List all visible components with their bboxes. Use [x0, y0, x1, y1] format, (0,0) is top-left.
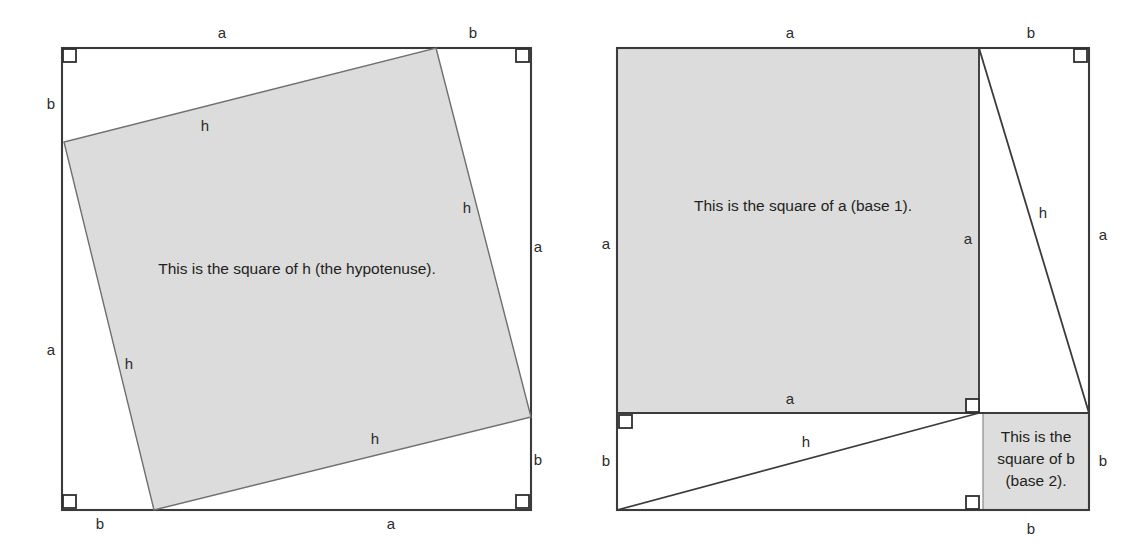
left-label-left-a: a — [47, 341, 56, 358]
right-label-left-b: b — [602, 452, 610, 469]
right-label-bottom-b: b — [1027, 520, 1035, 537]
left-label-bottom-a: a — [387, 515, 396, 532]
left-panel-caption: This is the square of h (the hypotenuse)… — [158, 260, 435, 277]
left-label-top-a: a — [218, 24, 227, 41]
left-panel-group: a b a b b a b a h h h h This is the squa… — [47, 24, 543, 532]
right-panel-caption-a: This is the square of a (base 1). — [694, 197, 912, 214]
left-label-bottom-b: b — [96, 515, 104, 532]
right-angle-marker-icon — [516, 49, 529, 62]
left-label-h-left: h — [125, 355, 133, 372]
left-tilted-hypotenuse-square — [64, 48, 531, 510]
right-angle-marker-icon — [516, 495, 529, 508]
right-angle-marker-icon — [63, 495, 76, 508]
right-angle-marker-icon — [63, 49, 76, 62]
right-label-top-b: b — [1027, 24, 1035, 41]
right-label-inner-horizontal-a: a — [786, 390, 795, 407]
right-label-right-a: a — [1099, 226, 1108, 243]
right-label-h-lower: h — [802, 433, 810, 450]
right-label-inner-vertical-a: a — [964, 230, 973, 247]
right-angle-marker-icon — [619, 415, 632, 428]
pythagorean-figure: a b a b b a b a h h h h This is the squa… — [0, 0, 1146, 556]
right-angle-marker-icon — [966, 399, 979, 412]
right-label-top-a: a — [786, 24, 795, 41]
left-label-top-b: b — [469, 24, 477, 41]
right-lower-hypotenuse-line — [617, 413, 979, 510]
left-label-left-b: b — [47, 95, 55, 112]
right-upper-hypotenuse-line — [979, 48, 1089, 413]
right-angle-marker-icon — [966, 496, 979, 509]
left-label-right-a: a — [534, 238, 543, 255]
right-label-h-upper: h — [1039, 204, 1047, 221]
right-label-left-a: a — [602, 235, 611, 252]
left-label-h-bottom: h — [371, 430, 379, 447]
right-panel-caption-b-line3: (base 2). — [1005, 472, 1066, 489]
left-label-h-top: h — [201, 117, 209, 134]
right-angle-marker-icon — [1074, 49, 1087, 62]
right-panel-caption-b-line1: This is the — [1001, 428, 1072, 445]
right-panel-group: a b a b b a b a a h h This is the square… — [602, 24, 1108, 537]
right-panel-caption-b-line2: square of b — [997, 450, 1075, 467]
left-label-h-right: h — [463, 199, 471, 216]
right-square-of-a — [617, 48, 979, 413]
diagram-canvas: a b a b b a b a h h h h This is the squa… — [0, 0, 1146, 556]
right-label-right-b: b — [1099, 452, 1107, 469]
left-label-right-b: b — [534, 451, 542, 468]
